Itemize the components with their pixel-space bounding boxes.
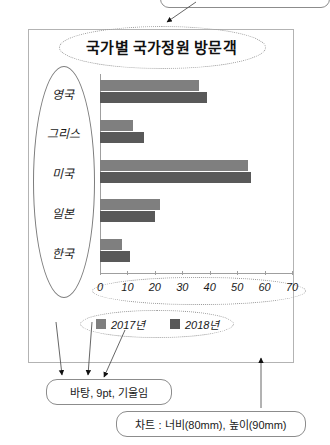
chart-title: 국가별 국가정원 방문객 <box>59 26 264 67</box>
bar-2018년 <box>100 92 207 103</box>
bar-2017년 <box>100 80 199 91</box>
legend-item-2017년: 2017년 <box>96 316 145 332</box>
bar-2017년 <box>100 239 122 250</box>
bars-plot-area <box>100 74 292 273</box>
x-axis-tick-label: 0 <box>87 281 113 293</box>
bar-2018년 <box>100 132 144 143</box>
legend-swatch-2018년 <box>170 319 180 329</box>
category-label-일본: 일본 <box>33 203 93 221</box>
bar-group <box>100 120 292 154</box>
font-note-callout: 바탕, 9pt, 기울임 <box>46 379 172 405</box>
bar-group <box>100 80 292 114</box>
bar-group <box>100 239 292 273</box>
chart-size-note-callout: 차트 : 너비(80mm), 높이(90mm) <box>116 411 306 437</box>
bar-2017년 <box>100 160 248 171</box>
x-axis-tick-label: 10 <box>114 281 140 293</box>
x-axis-line <box>100 273 292 274</box>
bar-2017년 <box>100 199 160 210</box>
bar-group <box>100 160 292 194</box>
category-label-한국: 한국 <box>33 243 93 261</box>
bar-2018년 <box>100 211 155 222</box>
category-label-영국: 영국 <box>33 84 93 102</box>
x-axis-tick-label: 40 <box>197 281 223 293</box>
bar-group <box>100 199 292 233</box>
category-label-미국: 미국 <box>33 164 93 182</box>
bar-2018년 <box>100 172 251 183</box>
category-label-그리스: 그리스 <box>33 124 93 142</box>
x-axis-tick-label: 20 <box>142 281 168 293</box>
x-axis-tick-label: 30 <box>169 281 195 293</box>
bar-2017년 <box>100 120 133 131</box>
top-callout-box <box>160 0 330 8</box>
legend-swatch-2017년 <box>96 319 106 329</box>
x-axis-tick-label: 60 <box>252 281 278 293</box>
legend-label-2018년: 2018년 <box>185 316 219 332</box>
bar-2018년 <box>100 251 130 262</box>
legend-label-2017년: 2017년 <box>111 316 145 332</box>
legend-item-2018년: 2018년 <box>170 316 219 332</box>
x-axis-tick-label: 70 <box>279 281 305 293</box>
x-axis-tick-label: 50 <box>224 281 250 293</box>
x-axis-tick <box>292 271 293 275</box>
